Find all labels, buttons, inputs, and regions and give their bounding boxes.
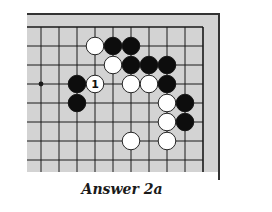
black-stone bbox=[158, 56, 176, 74]
board-background bbox=[27, 14, 219, 172]
diagram-caption: Answer 2a bbox=[0, 181, 244, 197]
black-stone bbox=[122, 56, 140, 74]
black-stone bbox=[140, 56, 158, 74]
black-stone bbox=[122, 37, 140, 55]
white-stone bbox=[86, 37, 104, 55]
white-stone bbox=[158, 94, 176, 112]
black-stone bbox=[158, 75, 176, 93]
white-stone bbox=[122, 132, 140, 150]
star-points bbox=[39, 82, 44, 87]
white-stone bbox=[104, 56, 122, 74]
black-stone bbox=[176, 113, 194, 131]
white-stone: 1 bbox=[86, 75, 104, 93]
white-stone bbox=[158, 113, 176, 131]
star-point bbox=[39, 82, 44, 87]
move-number-label: 1 bbox=[91, 78, 99, 91]
black-stone bbox=[68, 94, 86, 112]
white-stone bbox=[158, 132, 176, 150]
black-stone bbox=[104, 37, 122, 55]
white-stone bbox=[122, 75, 140, 93]
black-stone bbox=[68, 75, 86, 93]
black-stone bbox=[176, 94, 194, 112]
white-stone bbox=[140, 75, 158, 93]
